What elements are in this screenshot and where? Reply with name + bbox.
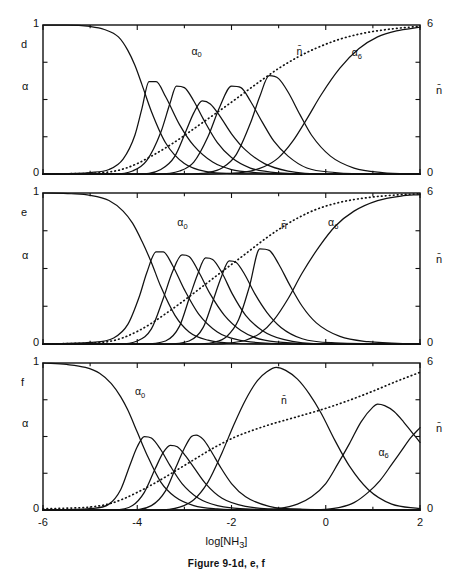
curve-label-α6: α6 <box>379 446 389 461</box>
figure-9-1: α0n̄α6dαn̄1060α0n̄α6eαn̄1060α0n̄α6fαn̄10… <box>0 0 453 586</box>
curve-alpha6-f <box>43 428 420 510</box>
x-tick-label-1: -4 <box>125 516 149 528</box>
y-left-max-d: 1 <box>30 17 42 29</box>
curve-label-n̄: n̄ <box>281 219 287 231</box>
curve-alpha0-d <box>43 25 420 174</box>
y-left-max-e: 1 <box>30 185 42 197</box>
curve-alpha3-f <box>43 435 420 510</box>
y-right-min-f: 0 <box>424 502 436 514</box>
plot-area-f: α0n̄α6 <box>0 362 453 511</box>
y-left-min-d: 0 <box>30 166 42 178</box>
panel-label-d: d <box>21 38 27 50</box>
curve-label-n̄: n̄ <box>297 45 303 57</box>
y-left-min-e: 0 <box>30 336 42 348</box>
figure-caption: Figure 9-1d, e, f <box>0 558 453 569</box>
y-axis-label-alpha-f: α <box>22 417 28 429</box>
axis-frame <box>43 25 420 174</box>
x-tick-label-4: 2 <box>408 516 432 528</box>
y-right-max-e: 6 <box>424 185 436 197</box>
curve-alpha5-f <box>43 404 420 510</box>
y-right-max-d: 6 <box>424 17 436 29</box>
axis-frame <box>43 193 420 344</box>
curve-label-α0: α0 <box>177 216 187 231</box>
axis-frame <box>43 363 420 510</box>
plot-panel-f: α0n̄α6 <box>0 362 453 511</box>
curve-label-n̄: n̄ <box>281 394 287 406</box>
y-axis-label-nbar-f: n̄ <box>436 422 442 434</box>
plot-area-d: α0n̄α6 <box>0 24 453 175</box>
x-tick-label-3: 0 <box>314 516 338 528</box>
curve-nbar-d <box>43 26 420 174</box>
y-axis-label-alpha-d: α <box>22 80 28 92</box>
x-tick-label-2: -2 <box>220 516 244 528</box>
curve-alpha6-e <box>43 195 420 344</box>
curve-label-α0: α0 <box>191 45 201 60</box>
y-axis-label-nbar-e: n̄ <box>436 253 442 265</box>
curve-alpha6-d <box>43 27 420 174</box>
curve-alpha3-d <box>43 101 420 174</box>
y-axis-label-nbar-d: n̄ <box>436 84 442 96</box>
y-right-max-f: 6 <box>424 355 436 367</box>
x-axis-label: log[NH3] <box>0 535 453 550</box>
curve-alpha0-e <box>43 193 420 344</box>
y-axis-label-alpha-e: α <box>22 249 28 261</box>
curve-label-α0: α0 <box>135 385 145 400</box>
x-axis-label-species: NH <box>223 535 239 547</box>
plot-panel-d: α0n̄α6 <box>0 24 453 175</box>
curve-alpha5-e <box>43 249 420 344</box>
y-left-max-f: 1 <box>30 355 42 367</box>
curve-alpha2-f <box>43 445 420 510</box>
y-right-min-d: 0 <box>424 166 436 178</box>
curve-alpha1-e <box>43 252 420 344</box>
x-axis-label-bracket-close: ] <box>244 535 247 547</box>
plot-area-e: α0n̄α6 <box>0 192 453 345</box>
y-left-min-f: 0 <box>30 502 42 514</box>
panel-label-e: e <box>21 206 27 218</box>
plot-panel-e: α0n̄α6 <box>0 192 453 345</box>
curve-alpha0-f <box>43 363 420 510</box>
curve-alpha1-f <box>43 437 420 511</box>
curve-nbar-f <box>43 372 420 508</box>
curve-label-α6: α6 <box>328 216 338 231</box>
x-tick-label-0: -6 <box>31 516 55 528</box>
curve-nbar-e <box>43 194 420 344</box>
x-axis-label-log: log <box>206 535 221 547</box>
y-right-min-e: 0 <box>424 336 436 348</box>
curve-alpha5-d <box>43 76 420 174</box>
panel-label-f: f <box>21 376 24 388</box>
curve-label-α6: α6 <box>352 46 362 61</box>
